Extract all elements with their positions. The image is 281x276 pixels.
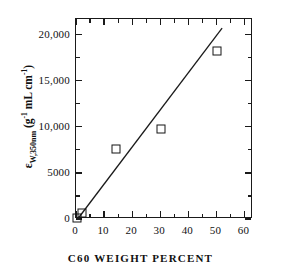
y-minor-tick-mark — [248, 57, 252, 58]
x-tick-label: 0 — [72, 224, 78, 236]
x-tick-label: 50 — [210, 224, 221, 236]
x-tick-mark — [188, 19, 189, 25]
x-tick-label: 30 — [154, 224, 165, 236]
y-tick-mark — [245, 80, 251, 81]
x-minor-tick-mark — [146, 214, 147, 218]
y-axis-title: εW,350nm (g-1 mL cm-1) — [20, 12, 37, 222]
y-minor-tick-mark — [76, 149, 80, 150]
x-tick-mark — [216, 19, 217, 25]
x-minor-tick-mark — [174, 214, 175, 218]
chart-figure: εW,350nm (g-1 mL cm-1) C60 WEIGHT PERCEN… — [0, 0, 281, 276]
x-minor-tick-mark — [118, 19, 119, 23]
x-minor-tick-mark — [146, 19, 147, 23]
y-tick-mark — [245, 34, 251, 35]
x-axis-title: C60 WEIGHT PERCENT — [0, 252, 281, 264]
x-tick-mark — [188, 211, 189, 217]
x-tick-mark — [132, 19, 133, 25]
y-axis-exponent-1: -1 — [20, 112, 29, 118]
x-tick-label: 10 — [97, 224, 108, 236]
x-minor-tick-mark — [174, 19, 175, 23]
x-minor-tick-mark — [230, 19, 231, 23]
x-tick-mark — [216, 211, 217, 217]
y-tick-mark — [76, 172, 82, 173]
data-point-marker — [111, 144, 120, 153]
x-tick-mark — [160, 211, 161, 217]
fit-line-layer — [76, 19, 253, 219]
y-tick-label: 15,000 — [0, 74, 70, 86]
data-point-marker — [77, 209, 86, 218]
y-minor-tick-mark — [248, 103, 252, 104]
y-tick-mark — [245, 172, 251, 173]
x-tick-mark — [132, 211, 133, 217]
x-tick-label: 40 — [182, 224, 193, 236]
linear-fit-line — [78, 28, 222, 219]
y-axis-subscript: W,350nm — [29, 131, 38, 163]
y-minor-tick-mark — [76, 57, 80, 58]
x-minor-tick-mark — [202, 214, 203, 218]
y-minor-tick-mark — [76, 195, 80, 196]
x-tick-mark — [75, 19, 76, 25]
data-point-marker — [156, 124, 165, 133]
x-minor-tick-mark — [118, 214, 119, 218]
y-tick-label: 0 — [0, 212, 70, 224]
x-minor-tick-mark — [202, 19, 203, 23]
y-minor-tick-mark — [76, 103, 80, 104]
y-axis-close-paren: ) — [22, 65, 34, 69]
x-minor-tick-mark — [230, 214, 231, 218]
plot-area — [75, 18, 252, 218]
y-tick-mark — [76, 80, 82, 81]
y-tick-mark — [76, 126, 82, 127]
data-point-marker — [213, 47, 222, 56]
y-tick-label: 10,000 — [0, 120, 70, 132]
y-tick-label: 20,000 — [0, 28, 70, 40]
x-tick-mark — [103, 211, 104, 217]
y-tick-mark — [245, 218, 251, 219]
y-tick-label: 5000 — [0, 166, 70, 178]
y-minor-tick-mark — [248, 195, 252, 196]
x-tick-mark — [244, 211, 245, 217]
x-tick-label: 60 — [238, 224, 249, 236]
x-tick-mark — [244, 19, 245, 25]
x-tick-label: 20 — [125, 224, 136, 236]
x-minor-tick-mark — [89, 214, 90, 218]
x-minor-tick-mark — [89, 19, 90, 23]
y-minor-tick-mark — [248, 149, 252, 150]
y-tick-mark — [245, 126, 251, 127]
x-tick-mark — [160, 19, 161, 25]
x-tick-mark — [103, 19, 104, 25]
y-tick-mark — [76, 34, 82, 35]
